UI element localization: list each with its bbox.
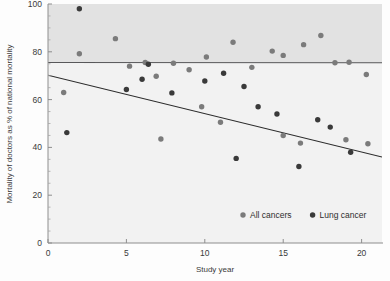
x-tick-label: 15 <box>278 248 288 258</box>
data-point <box>365 141 370 146</box>
legend-marker-0 <box>240 212 245 217</box>
x-axis-label: Study year <box>196 265 235 274</box>
y-tick-label: 100 <box>28 0 42 9</box>
data-point <box>127 63 132 68</box>
data-point <box>171 61 176 66</box>
data-point <box>154 73 159 78</box>
x-tick-label: 0 <box>46 248 51 258</box>
data-point <box>364 72 369 77</box>
data-point <box>348 149 353 154</box>
data-point <box>186 67 191 72</box>
data-point <box>199 104 204 109</box>
y-tick-label: 0 <box>37 238 42 248</box>
data-point <box>249 65 254 70</box>
data-point <box>328 124 333 129</box>
data-point <box>124 87 129 92</box>
data-point <box>64 130 69 135</box>
data-point <box>77 51 82 56</box>
y-axis-label: Mortality of doctors as % of national mo… <box>5 44 14 203</box>
data-point <box>169 90 174 95</box>
data-point <box>202 78 207 83</box>
scatter-chart-figure: 05101520 020406080100 Study year Mortali… <box>0 0 390 281</box>
data-point <box>204 54 209 59</box>
data-point <box>281 53 286 58</box>
plot-background-upper <box>48 4 382 63</box>
data-point <box>301 42 306 47</box>
y-tick-label: 40 <box>33 142 43 152</box>
data-point <box>270 48 275 53</box>
x-tick-label: 5 <box>124 248 129 258</box>
data-point <box>241 84 246 89</box>
data-point <box>274 111 279 116</box>
x-tick-label: 10 <box>200 248 210 258</box>
data-point <box>218 120 223 125</box>
data-point <box>318 33 323 38</box>
data-point <box>343 137 348 142</box>
data-point <box>298 140 303 145</box>
data-point <box>61 90 66 95</box>
data-point <box>158 136 163 141</box>
data-point <box>233 156 238 161</box>
data-point <box>221 71 226 76</box>
data-point <box>281 133 286 138</box>
data-point <box>113 36 118 41</box>
chart-canvas: 05101520 020406080100 Study year Mortali… <box>0 0 390 281</box>
data-point <box>315 117 320 122</box>
legend-label-0: All cancers <box>250 210 292 220</box>
data-point <box>255 104 260 109</box>
legend-label-1: Lung cancer <box>320 210 367 220</box>
legend-marker-1 <box>310 212 315 217</box>
data-point <box>146 62 151 67</box>
x-tick-label: 20 <box>357 248 367 258</box>
data-point <box>346 60 351 65</box>
data-point <box>139 77 144 82</box>
data-point <box>332 60 337 65</box>
data-point <box>230 40 235 45</box>
y-tick-label: 60 <box>33 95 43 105</box>
data-point <box>296 164 301 169</box>
data-point <box>77 6 82 11</box>
y-tick-label: 80 <box>33 47 43 57</box>
y-tick-label: 20 <box>33 190 43 200</box>
